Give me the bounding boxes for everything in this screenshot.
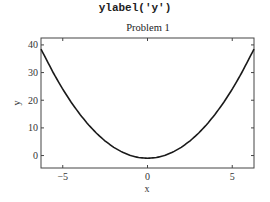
data-line — [41, 49, 254, 158]
y-axis-label: y — [11, 101, 22, 106]
y-tick-label: 40 — [28, 39, 38, 50]
y-tick-label: 20 — [28, 95, 38, 106]
x-axis-label: x — [145, 183, 150, 194]
y-tick-label: 0 — [33, 150, 38, 161]
x-tick-label: 5 — [230, 171, 235, 182]
y-tick-label: 10 — [28, 122, 38, 133]
axes-box — [41, 38, 254, 168]
x-tick-label: −5 — [57, 171, 68, 182]
y-tick-label: 30 — [28, 67, 38, 78]
axis-ticks: −505010203040 — [28, 38, 254, 182]
x-tick-label: 0 — [145, 171, 150, 182]
line-chart: Problem 1 −505010203040 x y — [0, 0, 270, 202]
chart-title: Problem 1 — [126, 22, 169, 33]
